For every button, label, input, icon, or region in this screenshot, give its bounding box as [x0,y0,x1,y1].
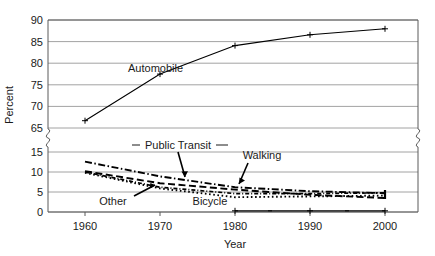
series-bicycle-line [85,173,385,197]
series-label-public-transit: Public Transit [145,139,211,151]
series-baseline [232,208,388,214]
y-tick-70: 70 [31,100,43,112]
series-label-automobile: Automobile [128,62,183,74]
axis-break-marker-right [416,129,419,147]
axis-break-marker-left [46,129,49,147]
y-tick-10: 10 [31,166,43,178]
x-axis-tick-labels: 1960 1970 1980 1990 2000 [73,220,397,232]
annotation-public-transit: Public Transit [132,139,228,177]
x-axis-title: Year [224,238,247,250]
y-axis-title: Percent [3,86,15,124]
transport-mode-share-line-chart: 90 85 80 75 70 65 15 10 5 0 Percent 1960 [0,0,435,256]
y-tick-5: 5 [37,186,43,198]
annotation-bicycle: Bicycle [193,195,228,207]
x-tick-1990: 1990 [298,220,322,232]
annotation-automobile: Automobile [128,62,183,74]
y-tick-90: 90 [31,14,43,26]
y-tick-80: 80 [31,57,43,69]
series-walking-line [85,171,385,198]
plot-frame [48,20,418,212]
y-tick-85: 85 [31,36,43,48]
x-tick-1970: 1970 [148,220,172,232]
y-tick-15: 15 [31,146,43,158]
arrowhead-public-transit [181,171,188,177]
y-axis-tick-labels-lower: 15 10 5 0 [31,146,43,218]
x-tick-1960: 1960 [73,220,97,232]
series-automobile-markers [82,26,388,124]
chart-container: 90 85 80 75 70 65 15 10 5 0 Percent 1960 [0,0,435,256]
series-public-transit-line [85,162,385,194]
series-label-bicycle: Bicycle [193,195,228,207]
y-axis-tick-labels-upper: 90 85 80 75 70 65 [31,14,43,134]
series-label-walking: Walking [243,149,282,161]
annotation-walking: Walking [239,149,281,184]
series-automobile-line [85,29,385,121]
y-tick-65: 65 [31,122,43,134]
x-tick-1980: 1980 [223,220,247,232]
y-tick-0: 0 [37,206,43,218]
y-tick-75: 75 [31,79,43,91]
series-label-other: Other [99,195,127,207]
gridlines-upper [48,20,418,128]
series-automobile [82,26,388,124]
x-tick-2000: 2000 [373,220,397,232]
annotation-other: Other [99,183,155,207]
